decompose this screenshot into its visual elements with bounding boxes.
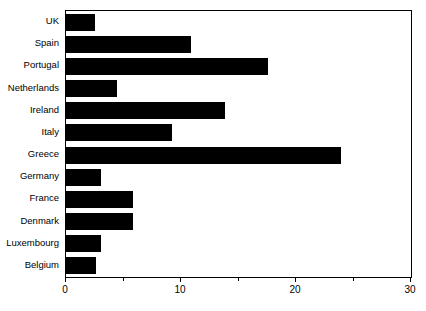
bar: [66, 14, 95, 31]
bar: [66, 147, 341, 164]
x-axis-tick-label: 20: [289, 284, 300, 296]
bar: [66, 213, 133, 230]
x-axis-tick: [180, 277, 181, 282]
bar: [66, 235, 101, 252]
bar: [66, 257, 96, 274]
bar: [66, 36, 191, 53]
bar: [66, 58, 268, 75]
category-label: Ireland: [0, 105, 59, 115]
bar: [66, 191, 133, 208]
bar: [66, 124, 172, 141]
category-label: Netherlands: [0, 83, 59, 93]
category-label: Germany: [0, 171, 59, 181]
x-axis-tick: [410, 277, 411, 282]
x-axis-tick-label: 10: [174, 284, 185, 296]
bar: [66, 102, 225, 119]
category-label: Spain: [0, 38, 59, 48]
category-label: Luxembourg: [0, 238, 59, 248]
bars-layer: [66, 11, 411, 277]
x-axis-minor-tick: [353, 277, 354, 281]
x-axis-tick: [295, 277, 296, 282]
category-label: Greece: [0, 149, 59, 159]
category-label: Belgium: [0, 260, 59, 270]
category-label: UK: [0, 16, 59, 26]
category-label: Denmark: [0, 216, 59, 226]
bar: [66, 169, 101, 186]
category-label: Italy: [0, 127, 59, 137]
x-axis: 0102030: [65, 277, 412, 311]
x-axis-tick: [65, 277, 66, 282]
bar-chart: UKSpainPortugalNetherlandsIrelandItalyGr…: [0, 0, 426, 311]
category-axis-labels: UKSpainPortugalNetherlandsIrelandItalyGr…: [0, 10, 62, 278]
x-axis-minor-tick: [123, 277, 124, 281]
x-axis-tick-label: 0: [62, 284, 68, 296]
x-axis-minor-tick: [238, 277, 239, 281]
category-label: France: [0, 193, 59, 203]
category-label: Portugal: [0, 60, 59, 70]
plot-area: [65, 10, 412, 278]
x-axis-tick-label: 30: [404, 284, 415, 296]
bar: [66, 80, 117, 97]
